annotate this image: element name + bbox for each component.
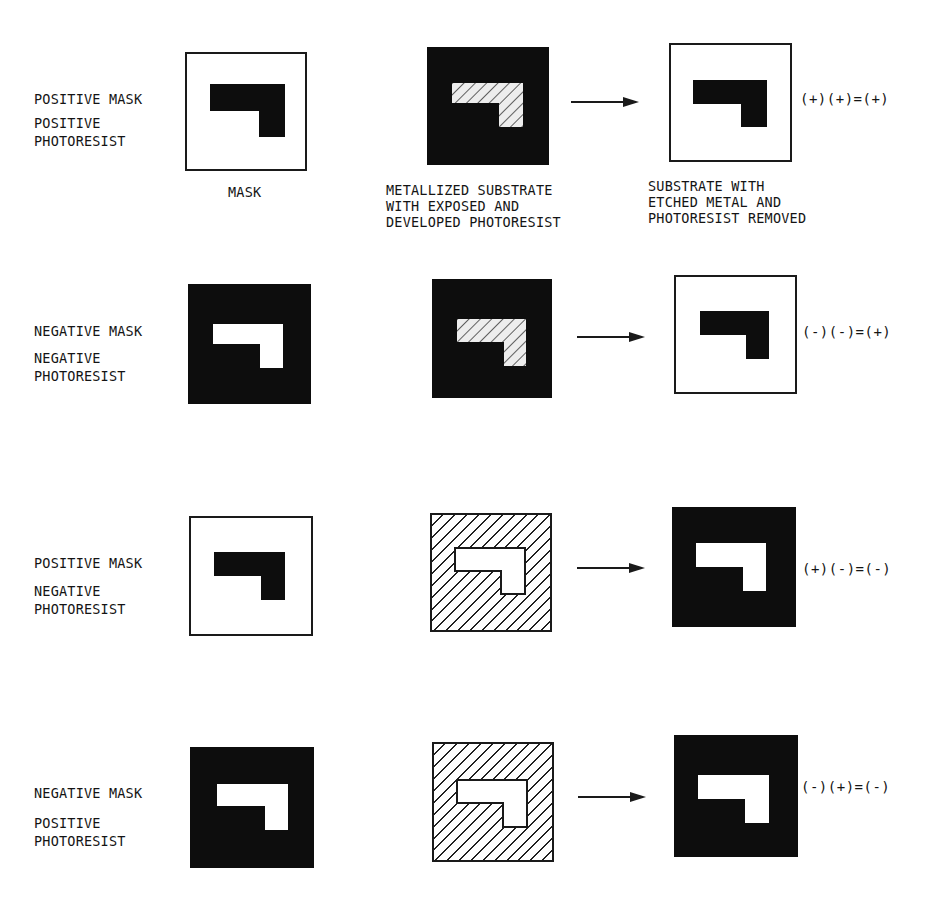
resist-type-label: POSITIVE (34, 115, 101, 132)
polarity-equation: (-)(+)=(-) (801, 779, 890, 795)
arrow-icon (577, 331, 647, 343)
polarity-equation: (-)(-)=(+) (802, 324, 891, 340)
resist-type-label: NEGATIVE (34, 583, 101, 600)
column-caption-result: SUBSTRATE WITH ETCHED METAL AND PHOTORES… (648, 178, 806, 226)
resist-type-label: POSITIVE (34, 815, 101, 832)
hatched-resist-feature (452, 83, 527, 131)
resist-type-label: PHOTORESIST (34, 133, 126, 150)
hatched-resist-feature (457, 319, 529, 369)
mask-type-label: POSITIVE MASK (34, 555, 142, 572)
developed-substrate-panel (427, 47, 549, 165)
etched-result-panel (674, 735, 798, 857)
mask-type-label: NEGATIVE MASK (34, 323, 142, 340)
etched-result-panel (672, 507, 796, 627)
etched-result-panel (674, 275, 797, 394)
resist-type-label: PHOTORESIST (34, 833, 126, 850)
etched-metal-feature (696, 543, 768, 595)
resist-type-label: PHOTORESIST (34, 368, 126, 385)
exposed-metal-feature (455, 548, 527, 600)
mask-panel (190, 747, 314, 868)
l-shaped-mask-feature (210, 84, 286, 140)
arrow-icon (578, 791, 648, 803)
mask-panel (189, 516, 313, 636)
mask-type-label: NEGATIVE MASK (34, 785, 142, 802)
mask-type-label: POSITIVE MASK (34, 91, 142, 108)
mask-panel (185, 52, 307, 171)
polarity-equation: (+)(-)=(-) (802, 561, 891, 577)
developed-substrate-panel (432, 742, 554, 862)
arrow-icon (571, 96, 641, 108)
developed-substrate-panel (430, 513, 552, 632)
resist-type-label: NEGATIVE (34, 350, 101, 367)
developed-substrate-panel (432, 279, 552, 398)
arrow-icon (577, 562, 647, 574)
l-shaped-mask-feature (213, 324, 285, 374)
l-shaped-mask-feature (217, 784, 289, 834)
mask-panel (188, 284, 311, 404)
etched-metal-feature (698, 775, 770, 827)
etched-result-panel (669, 43, 792, 162)
polarity-equation: (+)(+)=(+) (800, 91, 889, 107)
resist-type-label: PHOTORESIST (34, 601, 126, 618)
exposed-metal-feature (457, 780, 529, 832)
column-caption-mask: MASK (228, 184, 261, 201)
l-shaped-mask-feature (214, 552, 286, 604)
column-caption-developed: METALLIZED SUBSTRATE WITH EXPOSED AND DE… (386, 182, 561, 230)
etched-metal-feature (693, 80, 769, 132)
etched-metal-feature (700, 311, 772, 363)
